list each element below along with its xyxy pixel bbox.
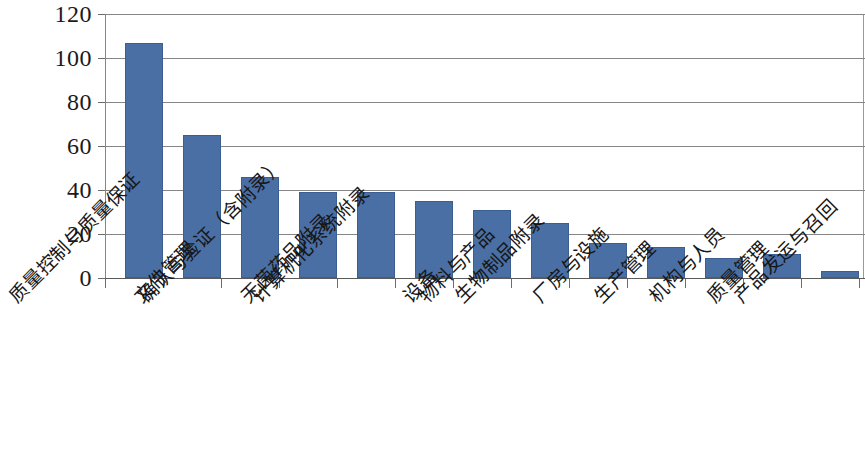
bar xyxy=(125,43,163,278)
y-axis-tick-mark xyxy=(98,58,105,59)
y-axis-tick-mark xyxy=(98,190,105,191)
x-axis-tick-mark xyxy=(221,279,222,288)
gridline-120 xyxy=(105,14,865,15)
y-axis-tick-mark xyxy=(98,102,105,103)
x-axis-tick-mark xyxy=(511,279,512,288)
bar xyxy=(821,271,859,278)
y-axis-tick-mark xyxy=(98,234,105,235)
x-axis-tick-mark xyxy=(337,279,338,288)
x-axis-tick-mark xyxy=(801,279,802,288)
gridline-80 xyxy=(105,102,865,103)
y-axis-tick-label: 60 xyxy=(8,134,92,158)
y-axis-tick-label: 120 xyxy=(8,2,92,26)
y-axis-tick-mark xyxy=(98,14,105,15)
y-axis-tick-mark xyxy=(98,146,105,147)
y-axis-tick-label: 100 xyxy=(8,46,92,70)
x-axis-tick-mark xyxy=(105,279,106,288)
y-axis-tick-label: 80 xyxy=(8,90,92,114)
gridline-100 xyxy=(105,58,865,59)
bar-chart: 120 100 80 60 40 20 0 xyxy=(0,0,865,459)
y-axis-tick-mark xyxy=(98,278,105,279)
x-axis-tick-mark xyxy=(395,279,396,288)
y-axis-tick-label: 40 xyxy=(8,178,92,202)
x-axis-tick-mark xyxy=(859,279,860,288)
